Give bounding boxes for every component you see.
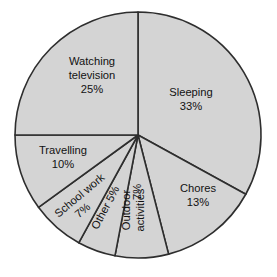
pie-percent-outdoor-activities: 7% [131, 184, 143, 200]
pie-chart-canvas: Sleeping33%Chores13%Outdooractivities7%O… [0, 0, 277, 277]
pie-chart: Sleeping33%Chores13%Outdooractivities7%O… [0, 0, 277, 277]
